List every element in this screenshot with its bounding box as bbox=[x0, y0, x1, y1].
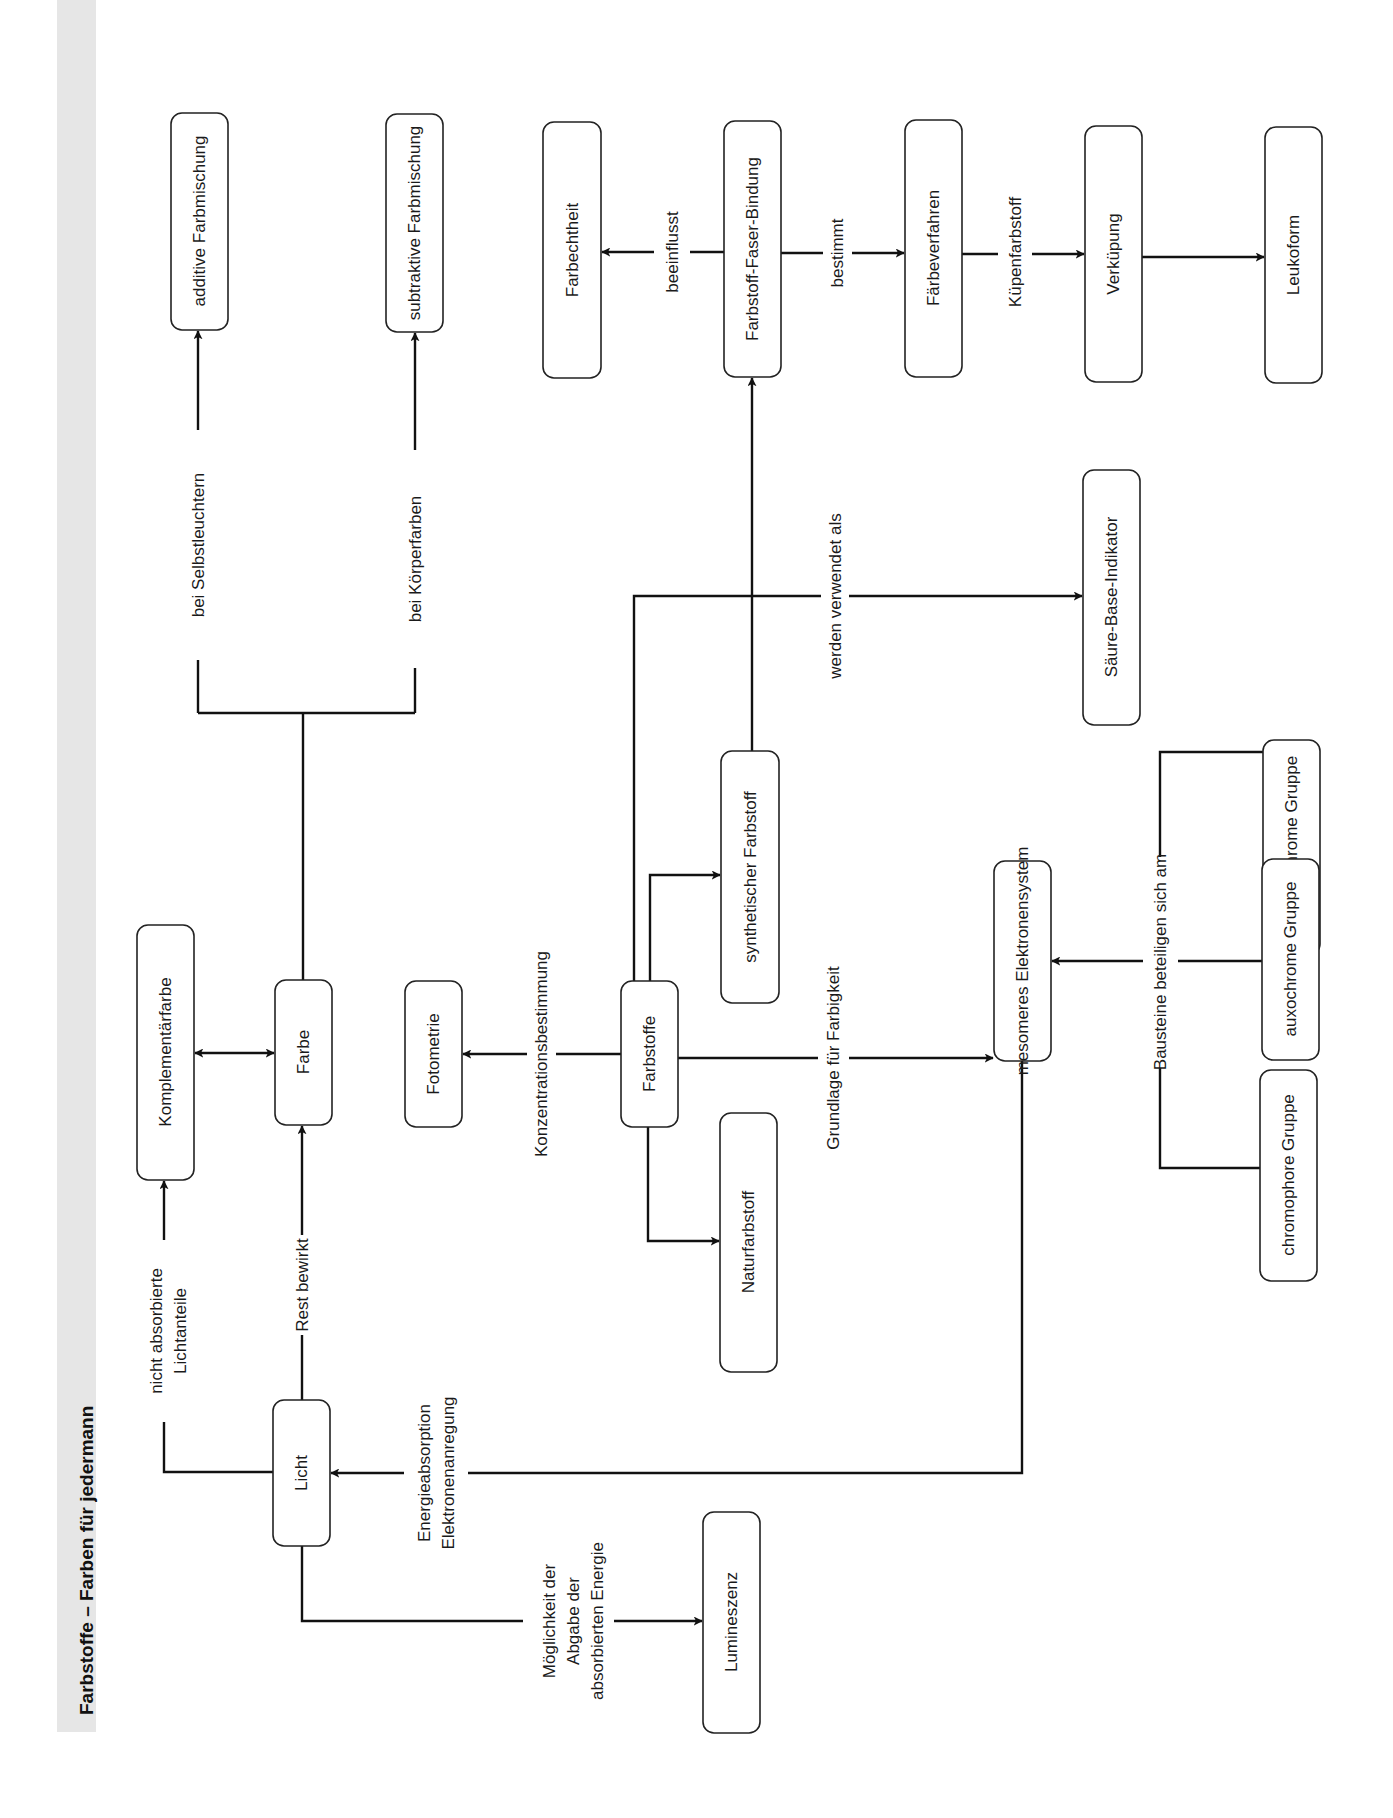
label-abgabe-3: absorbierten Energie bbox=[588, 1542, 607, 1700]
svg-text:Komplementärfarbe: Komplementärfarbe bbox=[156, 977, 175, 1126]
node-farbechtheit: Farbechtheit bbox=[543, 122, 601, 378]
node-lumineszenz: Lumineszenz bbox=[703, 1512, 760, 1733]
label-energie-2: Elektronenanregung bbox=[439, 1396, 458, 1549]
label-bestimmt: bestimmt bbox=[828, 218, 847, 287]
node-leukoform: Leukoform bbox=[1265, 127, 1322, 383]
label-nicht-absorbiert-1: nicht absorbierte bbox=[147, 1268, 166, 1394]
svg-text:synthetischer Farbstoff: synthetischer Farbstoff bbox=[741, 791, 760, 963]
label-konzentration: Konzentrationsbestimmung bbox=[532, 951, 551, 1157]
label-selbstleuchtern: bei Selbstleuchtern bbox=[189, 473, 208, 618]
svg-text:Färbeverfahren: Färbeverfahren bbox=[924, 190, 943, 306]
concept-map: bei Selbstleuchtern bei Körperfarben bee… bbox=[0, 0, 1393, 1818]
node-chromophor: chromophore Gruppe bbox=[1260, 1070, 1317, 1281]
node-synthetisch: synthetischer Farbstoff bbox=[721, 751, 779, 1003]
label-energie-1: Energieabsorption bbox=[415, 1404, 434, 1542]
node-mesomer: mesomeres Elektronensystem bbox=[994, 847, 1051, 1076]
svg-text:additive Farbmischung: additive Farbmischung bbox=[190, 135, 209, 306]
label-beeinflusst: beeinflusst bbox=[663, 211, 682, 293]
node-faerbeverfahren: Färbeverfahren bbox=[905, 120, 962, 377]
label-abgabe-2: Abgabe der bbox=[564, 1577, 583, 1665]
node-faser-bindung: Farbstoff-Faser-Bindung bbox=[724, 121, 781, 377]
node-naturfarbstoff: Naturfarbstoff bbox=[720, 1113, 777, 1372]
node-farbe: Farbe bbox=[275, 980, 332, 1125]
label-grundlage: Grundlage für Farbigkeit bbox=[824, 966, 843, 1150]
label-koerperfarben: bei Körperfarben bbox=[406, 496, 425, 623]
svg-text:Lumineszenz: Lumineszenz bbox=[722, 1572, 741, 1672]
svg-text:subtraktive Farbmischung: subtraktive Farbmischung bbox=[405, 126, 424, 321]
svg-text:chromophore Gruppe: chromophore Gruppe bbox=[1279, 1094, 1298, 1256]
label-bausteine: Bausteine beteiligen sich am bbox=[1151, 854, 1170, 1070]
svg-text:mesomeres Elektronensystem: mesomeres Elektronensystem bbox=[1013, 847, 1032, 1076]
svg-text:Farbstoff-Faser-Bindung: Farbstoff-Faser-Bindung bbox=[743, 157, 762, 341]
label-kuepenfarbstoff: Küpenfarbstoff bbox=[1006, 197, 1025, 308]
svg-text:Farbstoffe: Farbstoffe bbox=[640, 1016, 659, 1092]
node-subtraktive: subtraktive Farbmischung bbox=[386, 114, 443, 332]
label-abgabe-1: Möglichkeit der bbox=[540, 1563, 559, 1678]
svg-text:Fotometrie: Fotometrie bbox=[424, 1013, 443, 1094]
node-komplementaer: Komplementärfarbe bbox=[137, 925, 194, 1180]
svg-text:Naturfarbstoff: Naturfarbstoff bbox=[739, 1190, 758, 1293]
edge-farbstoffe-natur bbox=[648, 1127, 719, 1241]
node-verkuepung: Verküpung bbox=[1085, 126, 1142, 382]
svg-text:Licht: Licht bbox=[292, 1455, 311, 1491]
svg-text:Farbechtheit: Farbechtheit bbox=[563, 202, 582, 297]
node-farbstoffe: Farbstoffe bbox=[621, 981, 678, 1127]
label-verwendet: werden verwendet als bbox=[826, 513, 845, 679]
node-auxochrom: auxochrome Gruppe bbox=[1262, 859, 1319, 1060]
svg-text:Farbe: Farbe bbox=[294, 1030, 313, 1074]
label-nicht-absorbiert-2: Lichtanteile bbox=[171, 1288, 190, 1374]
node-licht: Licht bbox=[273, 1400, 330, 1546]
svg-text:Leukoform: Leukoform bbox=[1284, 215, 1303, 295]
edge-farbstoffe-synthetisch bbox=[650, 875, 720, 981]
node-fotometrie: Fotometrie bbox=[405, 981, 462, 1127]
svg-text:Verküpung: Verküpung bbox=[1104, 213, 1123, 294]
svg-text:auxochrome Gruppe: auxochrome Gruppe bbox=[1281, 882, 1300, 1037]
node-additive: additive Farbmischung bbox=[171, 113, 228, 330]
label-rest: Rest bewirkt bbox=[293, 1238, 312, 1332]
node-indikator: Säure-Base-Indikator bbox=[1083, 470, 1140, 725]
svg-text:Säure-Base-Indikator: Säure-Base-Indikator bbox=[1102, 516, 1121, 677]
